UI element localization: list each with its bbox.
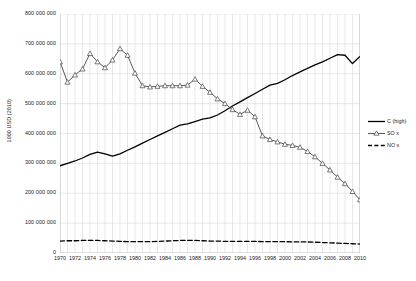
x-axis-tick-label: 1982: [144, 256, 156, 261]
x-axis-tick-label: 1994: [234, 256, 246, 261]
data-point-marker: [305, 149, 310, 154]
x-axis-tick-label: 1992: [219, 256, 231, 261]
data-point-marker: [193, 77, 198, 82]
x-axis: 1970197219741976197819801982198419861988…: [60, 256, 360, 272]
x-axis-tick-label: 1970: [54, 256, 66, 261]
legend-label: NO x: [387, 143, 399, 148]
y-axis-tick-label: 600 000 000: [25, 71, 56, 76]
x-axis-tick-label: 1980: [129, 256, 141, 261]
legend-item-so-x: SO x: [368, 128, 416, 139]
triangle-marker-line-icon: [368, 129, 385, 138]
x-axis-tick-label: 2010: [354, 256, 366, 261]
y-axis-title: 1000 USD (2010): [7, 83, 12, 159]
y-axis-tick-label: 700 000 000: [25, 41, 56, 46]
data-point-marker: [80, 66, 85, 71]
x-axis-tick-label: 2006: [324, 256, 336, 261]
x-axis-tick-label: 1974: [84, 256, 96, 261]
data-point-marker: [118, 46, 123, 51]
x-axis-tick-label: 2000: [279, 256, 291, 261]
data-point-marker: [245, 108, 250, 113]
x-axis-tick-label: 2002: [294, 256, 306, 261]
legend-item-c-high: C (high): [368, 116, 416, 127]
line-chart: 0100 000 000200 000 000300 000 000400 00…: [0, 0, 416, 281]
y-axis-tick-label: 500 000 000: [25, 101, 56, 106]
data-point-marker: [238, 112, 243, 117]
data-point-marker: [60, 59, 63, 64]
x-axis-tick-label: 2004: [309, 256, 321, 261]
x-axis-tick-label: 1978: [114, 256, 126, 261]
data-point-marker: [133, 71, 138, 76]
x-axis-tick-label: 1986: [174, 256, 186, 261]
y-axis-tick-label: 200 000 000: [25, 191, 56, 196]
x-axis-tick-label: 1998: [264, 256, 276, 261]
y-axis-tick-label: 100 000 000: [25, 220, 56, 225]
x-axis-tick-label: 1990: [204, 256, 216, 261]
legend-label: SO x: [387, 131, 399, 136]
x-axis-tick-label: 2008: [339, 256, 351, 261]
x-axis-tick-label: 1972: [69, 256, 81, 261]
legend-item-no-x: NO x: [368, 140, 416, 151]
solid-line-icon: [368, 117, 385, 126]
legend-label: C (high): [387, 119, 406, 124]
plot-area: [60, 14, 360, 253]
y-axis-tick-label: 400 000 000: [25, 131, 56, 136]
plot-canvas: [60, 14, 360, 253]
y-axis-tick-label: 800 000 000: [25, 11, 56, 16]
x-axis-tick-label: 1976: [99, 256, 111, 261]
x-axis-tick-label: 1984: [159, 256, 171, 261]
data-point-marker: [260, 133, 265, 138]
dashed-line-icon: [368, 141, 385, 150]
data-point-marker: [268, 137, 273, 142]
x-axis-tick-label: 1988: [189, 256, 201, 261]
data-point-marker: [88, 51, 93, 56]
y-axis-tick-label: 300 000 000: [25, 161, 56, 166]
chart-legend: C (high)SO xNO x: [368, 116, 416, 152]
x-axis-tick-label: 1996: [249, 256, 261, 261]
